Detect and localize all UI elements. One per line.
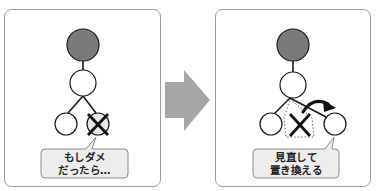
right-callout-line1: 見直して	[253, 151, 339, 164]
left-leaf-node	[55, 113, 77, 135]
child-node	[70, 70, 96, 96]
right-callout-text: 見直して 置き換える	[253, 151, 339, 177]
left-callout-line2: だったら…	[41, 164, 128, 177]
replacement-leaf-node	[324, 113, 346, 135]
root-node	[67, 29, 99, 61]
right-arrow-icon	[165, 70, 210, 131]
child-node	[280, 72, 306, 98]
root-node	[277, 29, 309, 61]
left-callout-line1: もしダメ	[41, 151, 128, 164]
right-callout-line2: 置き換える	[253, 164, 339, 177]
left-leaf-node	[260, 113, 282, 135]
left-callout-text: もしダメ だったら…	[41, 151, 128, 177]
